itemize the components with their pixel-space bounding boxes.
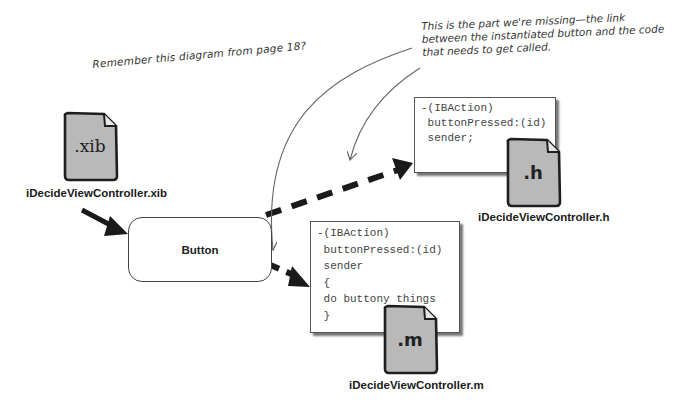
- button-node-label: Button: [181, 244, 218, 256]
- h-file-icon[interactable]: .h: [503, 136, 563, 208]
- code-line: buttonPressed:(id): [317, 242, 453, 259]
- file-extension-label: .xib: [60, 136, 120, 156]
- code-line: -(IBAction): [421, 101, 549, 116]
- button-node[interactable]: Button: [128, 217, 272, 282]
- h-file-name: iDecideViewController.h: [478, 211, 609, 223]
- annotation-arrow-to-h-link: [350, 68, 420, 160]
- xib-to-button-arrow: [82, 210, 128, 236]
- button-to-h-dashed-arrow: [266, 158, 413, 215]
- m-file-icon[interactable]: .m: [380, 303, 440, 375]
- code-line: {: [317, 275, 453, 292]
- code-line: sender: [317, 258, 453, 275]
- file-extension-label: .m: [380, 329, 440, 350]
- annotation-arrow-to-button-link: [271, 48, 412, 250]
- m-file-name: iDecideViewController.m: [349, 379, 484, 391]
- button-to-m-dashed-arrow: [268, 264, 310, 287]
- code-line: -(IBAction): [317, 225, 453, 242]
- xib-file-name: iDecideViewController.xib: [26, 187, 167, 199]
- file-extension-label: .h: [503, 162, 563, 183]
- code-line: buttonPressed:(id): [421, 116, 549, 131]
- xib-file-icon[interactable]: .xib: [60, 110, 120, 182]
